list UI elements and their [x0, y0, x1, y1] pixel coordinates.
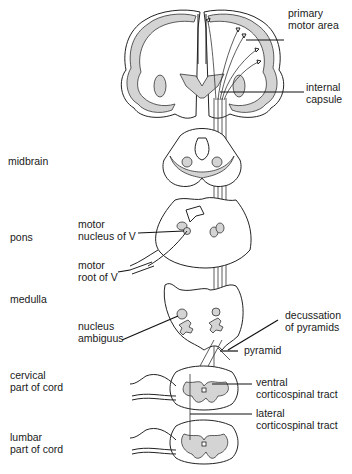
leader-nucleus-ambiguus: [122, 316, 178, 340]
midbrain-section: [163, 129, 241, 187]
leader-motor-root-v: [118, 270, 130, 272]
red-nucleus-right: [212, 157, 222, 167]
label-ventral-corticospinal-tract: ventral corticospinal tract: [256, 377, 338, 400]
motor-pathway-diagram: [0, 0, 352, 474]
label-lateral-corticospinal-tract: lateral corticospinal tract: [256, 408, 338, 431]
central-canal-cervical: [202, 388, 206, 392]
label-motor-root-v: motor root of V: [78, 260, 118, 283]
label-decussation-of-pyramids: decussation of pyramids: [285, 310, 341, 333]
lumbar-nerve-roots: [130, 428, 176, 454]
pons-outline: [156, 198, 251, 268]
label-medulla: medulla: [10, 294, 47, 306]
label-primary-motor-area: primary motor area: [288, 8, 339, 31]
label-motor-nucleus-v: motor nucleus of V: [78, 219, 136, 242]
medulla-nucleus-right: [212, 308, 220, 316]
pons-section: [130, 198, 251, 274]
basal-ganglia-left: [154, 75, 166, 97]
cerebrum-section: [121, 10, 283, 118]
label-pons: pons: [10, 232, 33, 244]
label-nucleus-ambiguus: nucleus ambiguus: [78, 321, 124, 344]
label-internal-capsule: internal capsule: [306, 82, 342, 105]
label-pyramid: pyramid: [244, 345, 281, 357]
basal-ganglia-right: [233, 75, 245, 97]
pons-nucleus-right-2: [216, 223, 224, 233]
label-lumbar-cord: lumbar part of cord: [10, 432, 63, 455]
label-midbrain: midbrain: [8, 156, 48, 168]
cervical-nerve-roots: [130, 374, 176, 400]
medulla-section: [164, 284, 243, 370]
red-nucleus-left: [182, 157, 192, 167]
cervical-cord-section: [130, 366, 238, 410]
label-cervical-cord: cervical part of cord: [10, 370, 63, 393]
nucleus-ambiguus-dot: [177, 309, 187, 319]
central-canal-lumbar: [202, 442, 206, 446]
